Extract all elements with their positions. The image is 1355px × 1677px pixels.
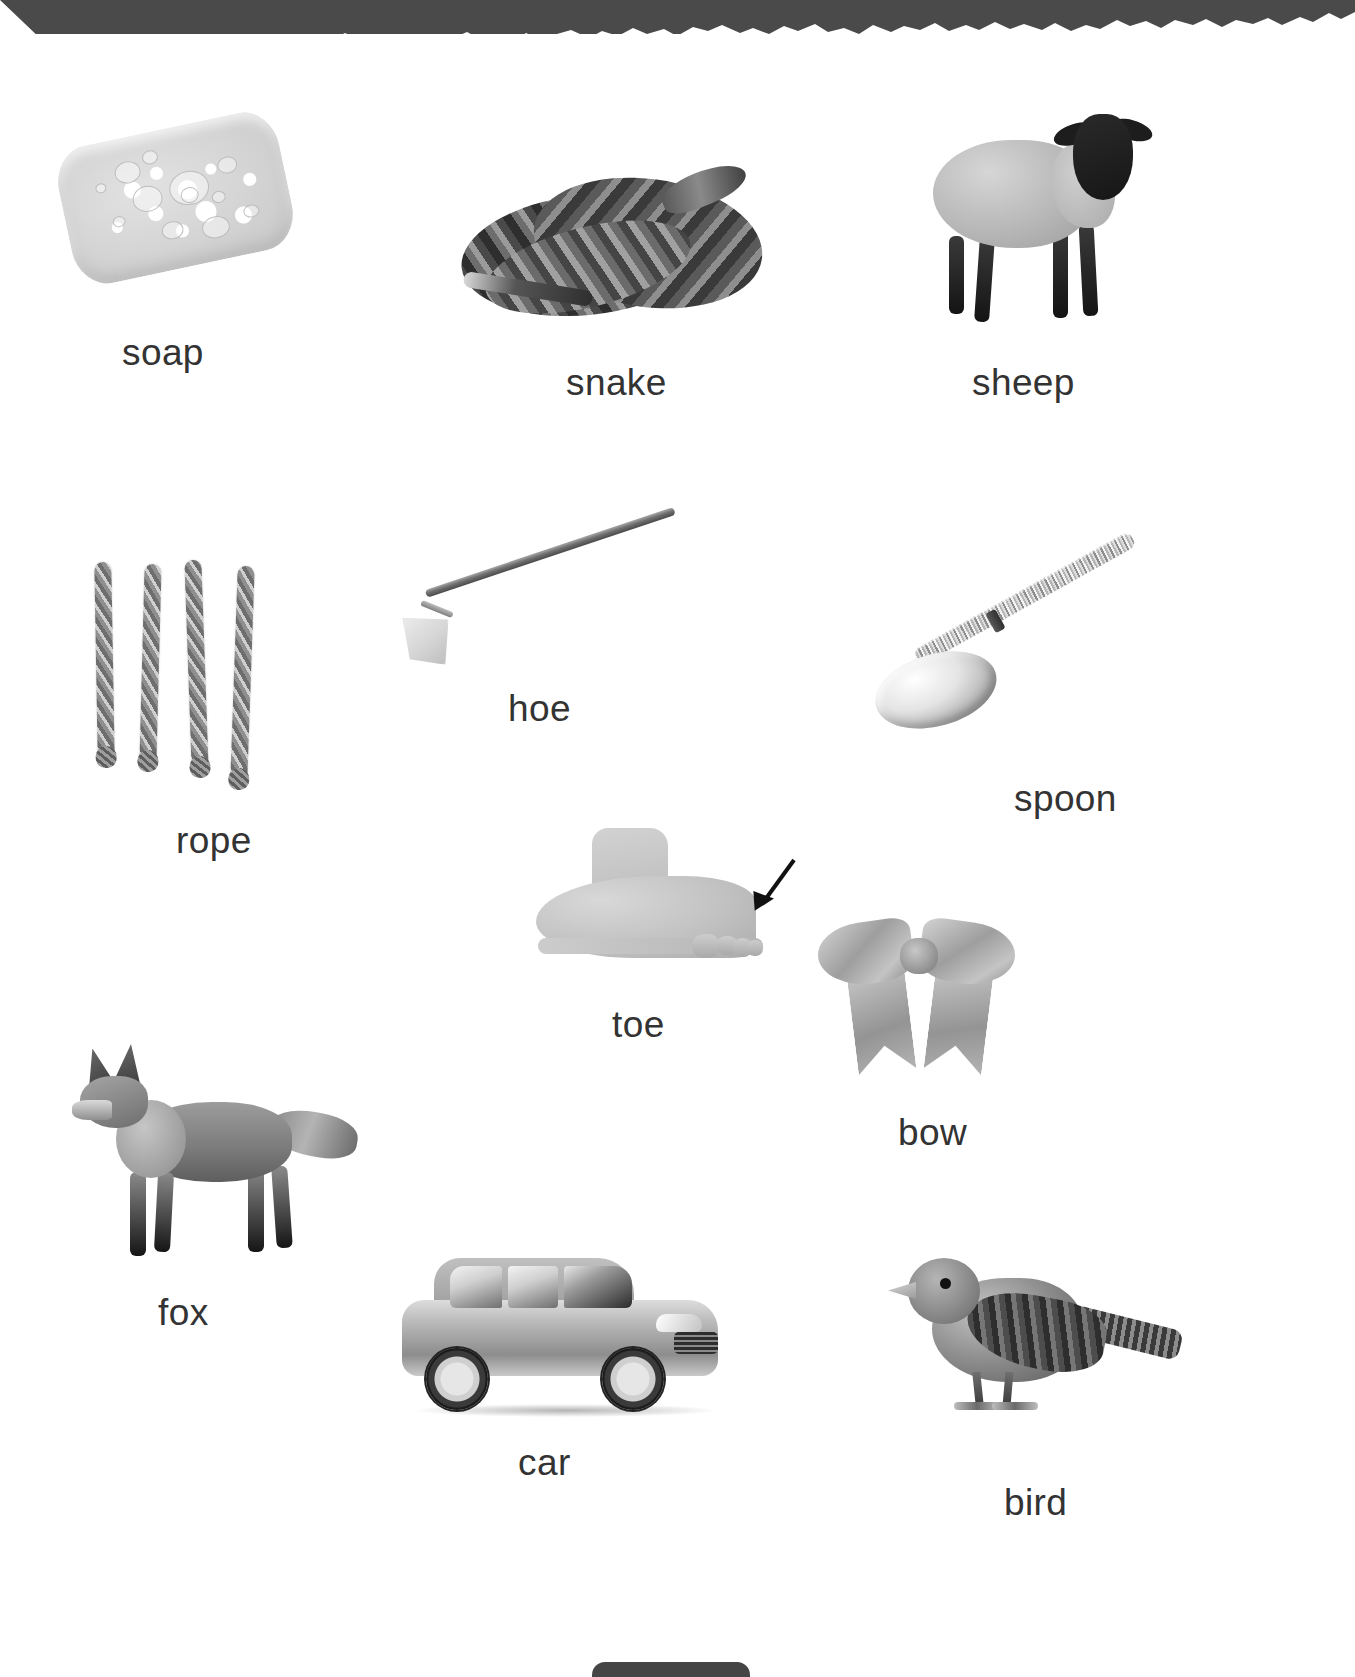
bird-beak: [888, 1282, 916, 1299]
bottom-page-tab[interactable]: [592, 1662, 750, 1677]
sheep-leg: [974, 236, 995, 323]
item-soap: [55, 110, 310, 295]
item-bird: [900, 1240, 1190, 1440]
car-wheel: [602, 1348, 664, 1410]
bird-foot: [992, 1402, 1038, 1410]
label-sheep: sheep: [972, 362, 1075, 404]
label-car: car: [518, 1442, 571, 1484]
worksheet-page: soap snake sheep rope hoe: [0, 0, 1355, 1677]
car-headlight: [656, 1314, 702, 1332]
soap-bubbles-overlay: [51, 106, 300, 290]
item-hoe: [402, 534, 687, 664]
hoe-blade: [402, 614, 451, 667]
car-windshield: [564, 1266, 632, 1308]
label-fox: fox: [158, 1292, 209, 1334]
rope-strand: [230, 566, 255, 782]
sheep-leg: [949, 236, 964, 314]
rope-strand: [94, 562, 114, 760]
item-fox: [72, 1040, 357, 1270]
toe-nub: [747, 940, 763, 956]
spoon-handle: [912, 531, 1137, 666]
item-rope: [88, 556, 288, 796]
sheep-head: [1073, 114, 1133, 200]
item-snake: [455, 155, 760, 335]
bird-head: [908, 1258, 980, 1324]
car-window: [450, 1266, 502, 1308]
label-hoe: hoe: [508, 688, 571, 730]
car-grille: [674, 1332, 718, 1354]
fox-leg: [271, 1166, 293, 1249]
car-window: [508, 1266, 558, 1308]
item-toe: [530, 828, 830, 988]
rope-strand: [184, 560, 208, 770]
label-spoon: spoon: [1014, 778, 1117, 820]
label-soap: soap: [122, 332, 204, 374]
fox-snout: [72, 1100, 112, 1120]
sheep-leg: [1079, 224, 1099, 317]
item-car: [398, 1248, 733, 1418]
item-sheep: [925, 112, 1140, 327]
bird-eye: [940, 1278, 951, 1289]
car-wheel: [426, 1348, 488, 1410]
item-spoon: [868, 528, 1168, 728]
torn-paper-edge: [0, 0, 1355, 34]
hoe-neck: [420, 600, 454, 618]
label-bird: bird: [1004, 1482, 1067, 1524]
label-toe: toe: [612, 1004, 665, 1046]
spoon-bowl: [866, 638, 1005, 741]
label-bow: bow: [898, 1112, 967, 1154]
rope-strand: [139, 564, 161, 764]
hoe-handle: [425, 507, 676, 598]
fox-leg: [130, 1172, 146, 1256]
label-rope: rope: [176, 820, 252, 862]
bow-knot: [900, 938, 938, 974]
pointer-arrow-icon: [740, 808, 810, 918]
label-snake: snake: [566, 362, 667, 404]
item-bow: [818, 918, 1028, 1093]
fox-leg: [154, 1172, 174, 1253]
